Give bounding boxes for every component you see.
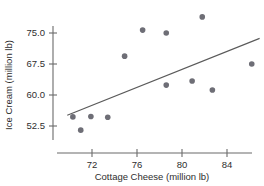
data-point [140, 27, 146, 33]
data-point [70, 114, 76, 120]
data-point [122, 53, 128, 59]
trend-line [67, 38, 259, 115]
x-tick-label: 72 [87, 159, 98, 170]
data-point [199, 14, 205, 20]
y-axis-title: Ice Cream (million lb) [3, 40, 14, 130]
x-tick-label: 84 [222, 159, 233, 170]
x-axis-title: Cottage Cheese (million lb) [95, 171, 210, 182]
regression-line [67, 38, 259, 115]
y-axis-tick-labels: 52.560.067.575.0 [27, 27, 46, 131]
y-tick-label: 52.5 [27, 120, 46, 131]
data-point [105, 115, 111, 121]
y-tick-label: 67.5 [27, 58, 46, 69]
data-point [88, 114, 94, 120]
x-axis-tick-labels: 72768084 [87, 159, 233, 170]
data-points-group [70, 14, 254, 133]
x-axis-group: 72768084 Cottage Cheese (million lb) [57, 149, 252, 182]
data-point [78, 127, 84, 133]
y-tick-label: 60.0 [27, 89, 46, 100]
data-point [163, 82, 169, 88]
y-tick-label: 75.0 [27, 27, 46, 38]
data-point [163, 30, 169, 36]
data-point [249, 61, 255, 67]
scatter-plot-figure: 52.560.067.575.0 Ice Cream (million lb) … [0, 0, 264, 186]
plot-canvas: 52.560.067.575.0 Ice Cream (million lb) … [0, 0, 264, 186]
x-tick-label: 76 [132, 159, 143, 170]
data-point [210, 87, 216, 93]
x-tick-label: 80 [177, 159, 188, 170]
y-axis-group: 52.560.067.575.0 Ice Cream (million lb) [3, 26, 57, 140]
data-point [189, 78, 195, 84]
